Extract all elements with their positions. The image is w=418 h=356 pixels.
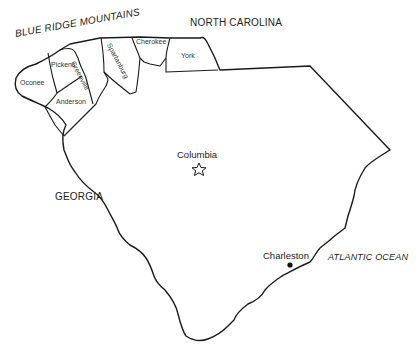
georgia-label: GEORGIA — [55, 191, 103, 202]
columbia-star-icon — [192, 163, 206, 176]
north-carolina-label: NORTH CAROLINA — [190, 17, 282, 28]
york-south-border — [166, 58, 218, 72]
greenville-spartanburg-border — [96, 38, 108, 104]
atlantic-ocean-label: ATLANTIC OCEAN — [328, 252, 408, 262]
city-label-columbia: Columbia — [177, 149, 217, 160]
county-label-cherokee: Cherokee — [136, 38, 166, 45]
anderson-greenville-border — [64, 104, 96, 136]
anderson-south-border — [45, 107, 64, 136]
county-label-oconee: Oconee — [20, 79, 45, 86]
county-label-anderson: Anderson — [56, 98, 86, 105]
charleston-dot-icon — [287, 262, 292, 267]
oconee-pickens-border — [48, 53, 57, 93]
spartanburg-cherokee-border — [130, 38, 140, 94]
south-carolina-map — [0, 0, 418, 356]
county-label-york: York — [181, 52, 195, 59]
city-label-charleston: Charleston — [263, 250, 309, 261]
